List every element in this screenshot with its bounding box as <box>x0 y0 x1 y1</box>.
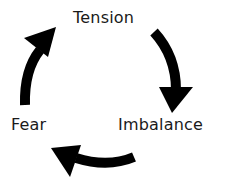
node-fear-label: Fear <box>11 117 46 133</box>
arrows-layer <box>0 0 226 190</box>
arrow-fear-to-tension <box>24 27 56 105</box>
arrow-tension-to-imbalance <box>154 32 193 113</box>
arrow-imbalance-to-fear <box>51 145 134 177</box>
node-tension-label: Tension <box>73 10 134 26</box>
node-imbalance-label: Imbalance <box>118 117 203 133</box>
cycle-diagram: Tension Imbalance Fear <box>0 0 226 190</box>
